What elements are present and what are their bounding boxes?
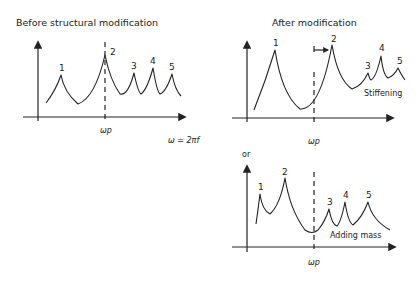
response-curve	[254, 45, 405, 110]
peak-label-2: 2	[282, 167, 288, 177]
peak-label-5: 5	[366, 190, 372, 200]
response-curve	[46, 55, 181, 104]
peak-label-3: 3	[365, 61, 371, 71]
panel-after-title: After modification	[272, 17, 357, 28]
adding-mass-label: Adding mass	[330, 231, 381, 240]
peak-label-4: 4	[343, 190, 349, 200]
frequency-response-diagram: Before structural modification 1 2 3 4 5…	[0, 0, 418, 284]
omega-p-label: ωp	[308, 137, 320, 146]
peak-label-1: 1	[59, 63, 65, 73]
peak-label-5: 5	[397, 56, 403, 66]
omega-p-label: ωp	[100, 126, 112, 135]
peak-label-2: 2	[110, 47, 116, 57]
panel-after: After modification 1 2 3 4 5 Stiffening …	[232, 17, 405, 146]
peak-label-4: 4	[150, 56, 156, 66]
peak-label-3: 3	[327, 197, 333, 207]
panel-before: Before structural modification 1 2 3 4 5…	[16, 17, 200, 145]
omega-p-label: ωp	[308, 258, 320, 267]
peak-label-1: 1	[273, 38, 279, 48]
peak-label-5: 5	[169, 62, 175, 72]
peak-label-2: 2	[331, 34, 337, 44]
panel-before-title: Before structural modification	[16, 17, 158, 28]
peak-label-4: 4	[379, 43, 385, 53]
panel-mass: or 1 2 3 4 5 Adding mass ωp	[232, 150, 395, 267]
x-axis-label: ω = 2πf	[168, 136, 200, 145]
or-label: or	[242, 150, 251, 159]
peak-label-1: 1	[258, 182, 264, 192]
peak-label-3: 3	[131, 61, 137, 71]
response-curve	[256, 178, 390, 233]
stiffening-label: Stiffening	[364, 89, 402, 98]
